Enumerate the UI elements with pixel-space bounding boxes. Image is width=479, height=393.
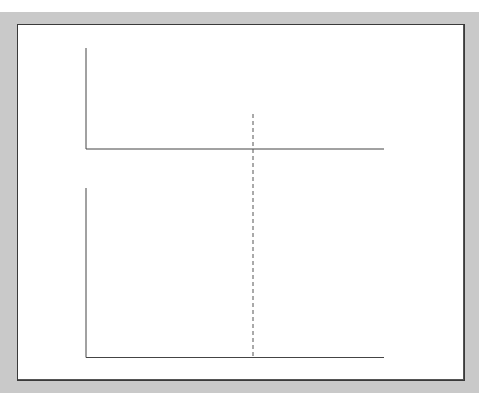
top-chart — [0, 0, 384, 149]
bottom-chart — [0, 0, 384, 358]
cost-curves-figure — [0, 0, 479, 393]
